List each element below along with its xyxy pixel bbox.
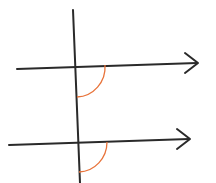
- upper-parallel-line: [17, 63, 197, 69]
- upper-angle-arc: [77, 65, 105, 97]
- lower-parallel-line: [9, 139, 189, 145]
- parallel-lines-diagram: [0, 0, 216, 183]
- lower-angle-arc: [79, 142, 107, 172]
